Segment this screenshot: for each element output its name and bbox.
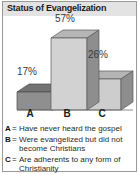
x-axis-label-c: C [93,108,111,119]
legend-text-c: Are adherents to any form of Christianit… [19,155,136,174]
page-title: Status of Evangelization [7,3,106,13]
legend-text-a: Have never heard the gospel [19,124,136,134]
legend-item-a: A = Have never heard the gospel [5,124,136,134]
legend-equals-b: = [12,135,17,144]
legend-item-c: C = Are adherents to any form of Christi… [5,155,136,174]
evangelization-chart-figure: Status of Evangelization [0,0,139,174]
legend-equals-a: = [12,124,17,133]
legend-equals-c: = [12,155,17,164]
x-axis-label-b: B [58,108,76,119]
bar-chart-plot-area: 17% 57% 26% [3,16,136,121]
bar-value-label-b: 57% [55,13,75,24]
legend-key-a: A [5,124,11,133]
bar-value-label-c: 26% [88,49,108,60]
bar-b-3d [51,30,99,110]
x-axis-labels: A B C [3,108,136,122]
legend-item-b: B = Were evangelized but did not become … [5,135,136,154]
legend-text-b: Were evangelized but did not become Chri… [19,135,136,154]
bar-value-label-a: 17% [17,66,37,77]
legend-key-c: C [5,155,11,164]
x-axis-label-a: A [21,108,39,119]
legend-key-b: B [5,135,11,144]
legend: A = Have never heard the gospel B = Were… [5,124,136,174]
